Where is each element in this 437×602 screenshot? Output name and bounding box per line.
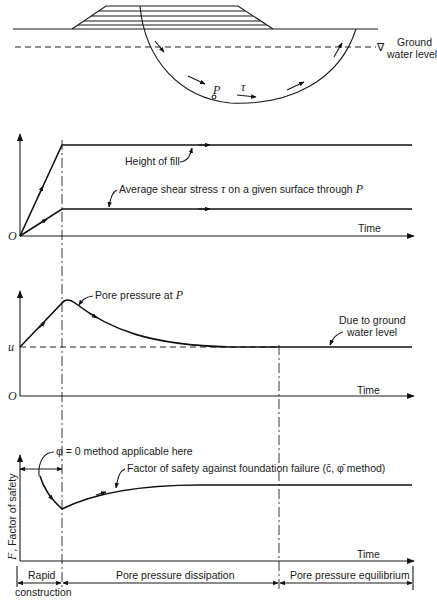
fs-arrow-1 xyxy=(49,495,53,500)
leader-phi-zero xyxy=(39,452,54,476)
groundwater-symbol: ∇ xyxy=(376,41,385,53)
phase-dissipation-label: Pore pressure dissipation xyxy=(116,569,235,581)
label-factor-of-safety: Factor of safety against foundation fail… xyxy=(127,462,385,474)
label-pore-pressure-p: P xyxy=(175,288,184,302)
cross-section: ∇ Ground water level P τ xyxy=(13,6,437,103)
groundwater-label-2: water level xyxy=(386,48,437,60)
leader-factor-of-safety xyxy=(116,469,125,488)
chart1-origin-label: O xyxy=(8,229,17,243)
series-factor-of-safety xyxy=(40,476,412,509)
label-groundwater-2: water level xyxy=(346,326,397,338)
series-pore-pressure xyxy=(20,300,279,347)
series-shear-stress xyxy=(20,209,412,236)
chart2-origin-label: O xyxy=(8,389,17,403)
point-p-label: P xyxy=(212,83,221,97)
chart3-x-label: Time xyxy=(357,548,380,560)
slip-arrow-4 xyxy=(334,43,342,57)
label-pore-pressure: Pore pressure atP xyxy=(95,288,184,302)
label-height-of-fill: Height of fill xyxy=(125,155,180,167)
leader-pore-pressure xyxy=(79,296,93,305)
shear-arrow xyxy=(237,95,256,97)
label-shear-stress: Average shear stressτon a given surface … xyxy=(119,182,364,196)
diagram-canvas: ∇ Ground water level P τ O Time Height o… xyxy=(0,0,437,602)
label-shear-stress-a: Average shear stress xyxy=(119,183,218,195)
groundwater-label-1: Ground xyxy=(397,36,432,48)
chart-loading: O Time Height of fill Average shear stre… xyxy=(8,134,414,243)
shear-tau-label: τ xyxy=(241,80,246,94)
phase-timeline: Rapid construction Pore pressure dissipa… xyxy=(15,566,413,598)
chart2-u-label: u xyxy=(8,340,14,354)
label-pore-pressure-text: Pore pressure at xyxy=(95,289,173,301)
slip-arrow-3 xyxy=(287,82,304,90)
chart3-y-label-f: F xyxy=(5,552,19,561)
chart-pore-pressure: O u Time Pore pressure atP Due to ground… xyxy=(8,288,414,403)
chart1-x-label: Time xyxy=(358,222,381,234)
leader-shear-stress xyxy=(109,190,117,207)
phase-equilibrium-label: Pore pressure equilibrium xyxy=(290,569,410,581)
label-phi-zero: φ = 0 method applicable here xyxy=(56,445,193,457)
pore-arrow-2 xyxy=(89,313,97,318)
embankment-layers xyxy=(78,11,266,25)
phase-rapid-label-1: Rapid xyxy=(28,569,56,581)
chart-factor-of-safety: Time F, Factor of safety φ = 0 method ap… xyxy=(5,445,414,561)
chart3-y-label: F, Factor of safety xyxy=(5,473,19,561)
label-groundwater-1: Due to ground xyxy=(339,314,406,326)
leader-height-of-fill xyxy=(180,148,192,162)
phase-rapid-label-2: construction xyxy=(15,586,72,598)
chart3-y-label-text: , Factor of safety xyxy=(6,473,18,552)
label-shear-stress-p: P xyxy=(355,182,364,196)
leader-groundwater xyxy=(330,332,343,345)
chart2-x-label: Time xyxy=(357,384,380,396)
slip-arrow-2 xyxy=(188,76,205,84)
label-shear-stress-tau: τ xyxy=(221,182,226,196)
fill-arrow-1 xyxy=(38,186,43,197)
label-shear-stress-b: on a given surface through xyxy=(228,183,352,195)
shear-arrow-1 xyxy=(39,219,47,224)
